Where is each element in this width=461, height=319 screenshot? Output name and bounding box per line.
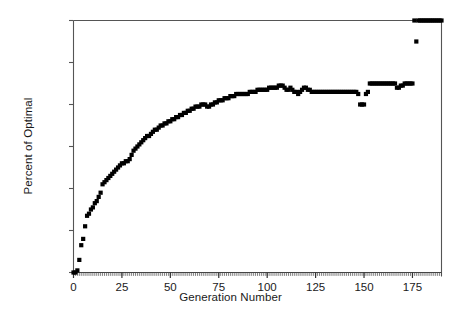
x-tick-175: 175 [403, 281, 422, 293]
x-axis-tick-labels: 0255075100125150175 [0, 0, 461, 319]
x-tick-0: 0 [70, 281, 76, 293]
x-tick-25: 25 [116, 281, 129, 293]
x-tick-50: 50 [164, 281, 177, 293]
x-tick-125: 125 [306, 281, 325, 293]
x-tick-150: 150 [354, 281, 373, 293]
x-tick-100: 100 [258, 281, 277, 293]
chart-figure: Percent of Optimal Generation Number 889… [0, 0, 461, 319]
x-tick-75: 75 [212, 281, 225, 293]
